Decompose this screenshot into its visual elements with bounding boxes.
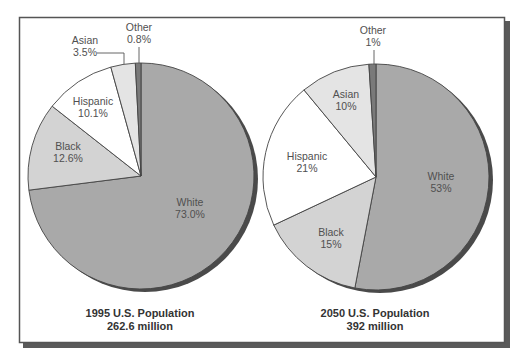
slice-value-asian: 10% <box>335 100 356 112</box>
slice-label-hispanic: Hispanic <box>73 95 113 107</box>
slice-label-black: Black <box>55 140 81 152</box>
caption-title: 1995 U.S. Population <box>86 307 195 319</box>
slice-label-asian: Asian <box>72 34 98 46</box>
slice-label-white: White <box>428 170 455 182</box>
slice-label-white: White <box>177 196 204 208</box>
caption-subtitle: 262.6 million <box>107 320 173 332</box>
slice-value-other: 0.8% <box>127 33 151 45</box>
slice-value-white: 73.0% <box>175 208 205 220</box>
slice-value-hispanic: 21% <box>296 162 317 174</box>
pie-charts-figure: White73.0%Black12.6%Hispanic10.1%Asian3.… <box>0 0 524 363</box>
caption-title: 2050 U.S. Population <box>321 307 430 319</box>
slice-label-asian: Asian <box>333 88 359 100</box>
slice-value-black: 15% <box>320 238 341 250</box>
slice-value-white: 53% <box>430 182 451 194</box>
slice-value-other: 1% <box>365 36 380 48</box>
caption-subtitle: 392 million <box>347 320 404 332</box>
slice-label-black: Black <box>318 226 344 238</box>
slice-value-hispanic: 10.1% <box>78 107 108 119</box>
slice-label-other: Other <box>360 24 387 36</box>
slice-label-hispanic: Hispanic <box>287 150 327 162</box>
slice-value-black: 12.6% <box>53 152 83 164</box>
slice-label-other: Other <box>126 21 153 33</box>
slice-value-asian: 3.5% <box>73 46 97 58</box>
